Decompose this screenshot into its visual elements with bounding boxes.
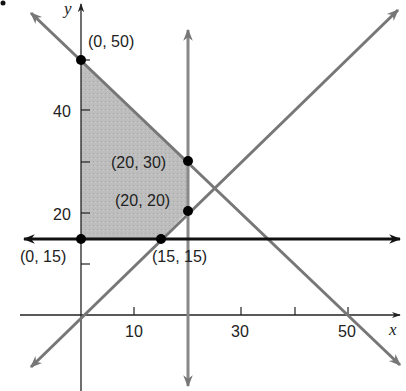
- x-axis-label: x: [388, 320, 397, 339]
- point-label-0-50: (0, 50): [88, 33, 134, 50]
- linear-programming-graph: y x 10 30 50 40 20 (0, 50) (20, 30) (20,…: [0, 0, 406, 391]
- point-label-15-15: (15, 15): [152, 248, 207, 265]
- x-ticks: [134, 307, 348, 315]
- point-20-30: [183, 156, 193, 166]
- point-0-50: [76, 55, 86, 65]
- point-15-15: [156, 234, 166, 244]
- y-tick-label-40: 40: [53, 103, 71, 120]
- point-0-15: [76, 234, 86, 244]
- y-axis-label: y: [62, 0, 72, 18]
- y-tick-label-20: 20: [53, 206, 71, 223]
- point-20-20: [183, 206, 193, 216]
- corner-dot: [1, 1, 6, 6]
- x-tick-label-30: 30: [231, 323, 249, 340]
- point-label-0-15: (0, 15): [20, 248, 66, 265]
- x-tick-label-10: 10: [125, 323, 143, 340]
- x-tick-label-50: 50: [338, 323, 356, 340]
- point-label-20-20: (20, 20): [115, 192, 170, 209]
- point-label-20-30: (20, 30): [111, 154, 166, 171]
